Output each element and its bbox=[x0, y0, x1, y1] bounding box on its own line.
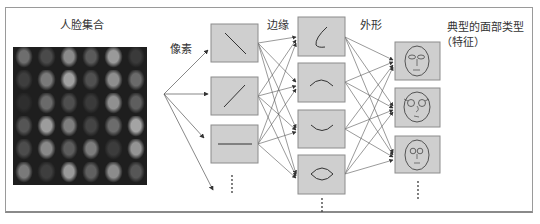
edge-to-shape-arrows bbox=[258, 37, 296, 178]
network-diagram bbox=[0, 0, 540, 224]
pixel-fan-arrows bbox=[164, 50, 213, 190]
face-box-glasses bbox=[395, 88, 440, 127]
shape-box-corner-curve bbox=[298, 17, 345, 56]
shape-box-arc-up bbox=[298, 63, 345, 102]
face-box-round-eyes bbox=[395, 136, 440, 173]
shape-box-arc-down bbox=[298, 110, 345, 148]
edge-layer bbox=[211, 24, 258, 163]
edge-box-diagonal-down bbox=[211, 24, 258, 62]
edge-box-diagonal-up bbox=[211, 77, 258, 115]
shape-to-face-arrows bbox=[345, 37, 393, 174]
shape-continuation-dots bbox=[321, 198, 323, 212]
edge-continuation-dots bbox=[231, 175, 233, 193]
shape-box-eye bbox=[298, 155, 345, 194]
face-box-oval-eyes bbox=[395, 42, 440, 80]
face-layer bbox=[395, 42, 440, 173]
face-continuation-dots bbox=[417, 181, 419, 199]
shape-layer bbox=[298, 17, 345, 194]
edge-box-horizontal bbox=[211, 125, 258, 163]
